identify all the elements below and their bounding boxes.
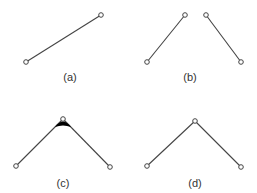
panel-d xyxy=(145,119,244,170)
panel-b xyxy=(145,13,244,65)
edge-d-1 xyxy=(147,121,195,166)
node-d-1 xyxy=(145,164,150,169)
node-a-1 xyxy=(24,60,29,65)
node-c-1 xyxy=(14,164,19,169)
node-a-2 xyxy=(99,13,104,18)
edge-b-1 xyxy=(147,15,185,62)
panel-label-c: (c) xyxy=(57,178,70,189)
panel-label-b: (b) xyxy=(183,72,196,83)
node-c-2 xyxy=(61,117,66,122)
node-d-2 xyxy=(193,119,198,124)
joint-wedge-icon xyxy=(55,122,71,128)
panel-label-a: (a) xyxy=(63,72,76,83)
node-d-3 xyxy=(239,165,244,170)
node-b-2 xyxy=(183,13,188,18)
panel-c xyxy=(14,117,113,170)
edge-d-2 xyxy=(195,121,241,167)
panel-a xyxy=(24,13,104,65)
node-c-3 xyxy=(108,165,113,170)
panel-label-d: (d) xyxy=(188,178,201,189)
diagram-canvas xyxy=(0,0,257,193)
node-b-3 xyxy=(204,13,209,18)
edge-b-2 xyxy=(206,15,241,62)
edge-a-1 xyxy=(26,15,101,62)
node-b-4 xyxy=(239,60,244,65)
line-segment-diagram: (a) (b) (c) (d) xyxy=(0,0,257,193)
node-b-1 xyxy=(145,60,150,65)
